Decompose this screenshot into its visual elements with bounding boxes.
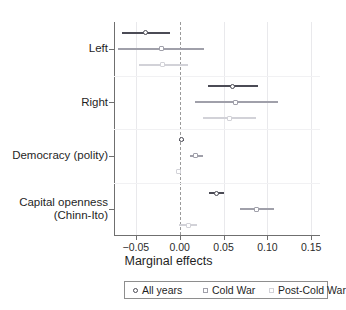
point-estimate-marker [159, 46, 164, 51]
point-estimate-marker [227, 116, 232, 121]
legend-square-icon [203, 288, 208, 293]
point-estimate-marker [186, 223, 191, 228]
category-separator [114, 129, 320, 130]
legend[interactable]: All yearsCold WarPost-Cold War [124, 281, 328, 299]
y-tick [109, 49, 114, 50]
point-estimate-marker [176, 169, 181, 174]
x-tick-label: 0.10 [244, 241, 290, 253]
plot-area [114, 22, 320, 236]
point-estimate-marker [193, 153, 198, 158]
legend-item[interactable]: Post-Cold War [269, 284, 346, 296]
y-axis-category-label: Right [0, 96, 108, 109]
x-tick [180, 236, 181, 240]
legend-label: Cold War [212, 284, 255, 296]
x-axis-title: Marginal effects [0, 254, 337, 268]
x-tick-label: 0.05 [201, 241, 247, 253]
x-tick-label: 0.15 [288, 241, 334, 253]
x-tick-label: −0.05 [113, 241, 159, 253]
legend-item[interactable]: All years [133, 284, 182, 296]
point-estimate-marker [233, 100, 238, 105]
y-axis-category-label: Left [0, 42, 108, 55]
x-tick [311, 236, 312, 240]
legend-label: Post-Cold War [278, 284, 346, 296]
category-separator [114, 183, 320, 184]
x-tick [267, 236, 268, 240]
point-estimate-marker [230, 84, 235, 89]
point-estimate-marker [254, 207, 259, 212]
y-axis-category-label: Capital openness (Chinn-Ito) [0, 196, 108, 222]
legend-label: All years [142, 284, 182, 296]
category-separator [114, 76, 320, 77]
y-axis-category-label: Democracy (polity) [0, 149, 108, 162]
point-estimate-marker [160, 62, 165, 67]
point-estimate-marker [179, 137, 184, 142]
x-tick-label: 0.00 [157, 241, 203, 253]
y-tick [109, 209, 114, 210]
point-estimate-marker [214, 191, 219, 196]
legend-square-icon [269, 288, 274, 293]
x-tick [224, 236, 225, 240]
point-estimate-marker [143, 30, 148, 35]
x-axis-line [114, 235, 320, 236]
legend-circle-icon [133, 288, 138, 293]
y-tick [109, 102, 114, 103]
x-tick [136, 236, 137, 240]
y-tick [109, 156, 114, 157]
legend-item[interactable]: Cold War [203, 284, 255, 296]
